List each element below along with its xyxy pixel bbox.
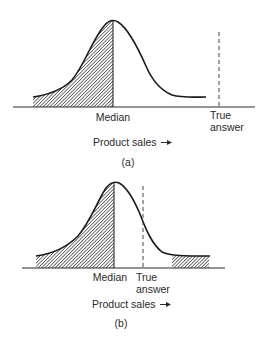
- arrow-right-icon: [161, 140, 172, 145]
- axis-label-b: Product sales: [92, 298, 156, 310]
- panel-b: Median True answer Product sales (b): [22, 182, 225, 329]
- true-answer-label-a-line2: answer: [210, 121, 244, 133]
- arrow-right-icon: [160, 302, 171, 307]
- axis-label-a: Product sales: [93, 136, 157, 148]
- true-answer-label-a-line1: True: [210, 109, 231, 121]
- caption-a: (a): [122, 156, 135, 168]
- figure-canvas: Median True answer Product sales (a) Med…: [0, 0, 256, 340]
- caption-b: (b): [115, 317, 128, 329]
- true-answer-label-b-line1: True: [136, 271, 157, 283]
- shaded-region-right-tail-b: [172, 256, 209, 268]
- distribution-curve-a: [33, 21, 206, 98]
- true-answer-label-b-line2: answer: [136, 283, 170, 295]
- distribution-curve-b: [36, 182, 210, 256]
- median-label-b: Median: [93, 271, 128, 283]
- panel-a: Median True answer Product sales (a): [13, 21, 255, 168]
- median-label-a: Median: [96, 111, 131, 123]
